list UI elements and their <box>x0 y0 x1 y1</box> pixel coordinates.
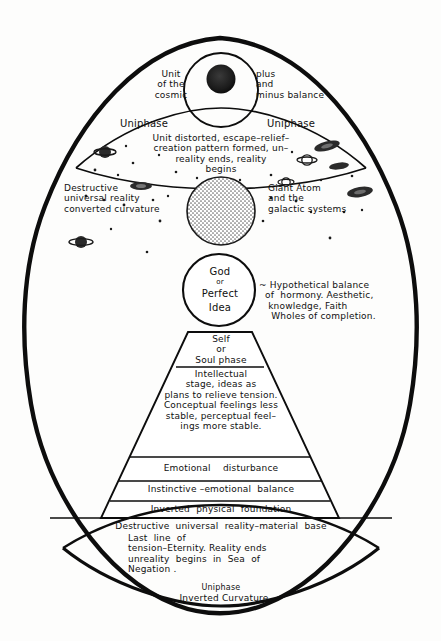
material-base-label: Destructive universal reality–material b… <box>55 521 387 531</box>
giant-atom-sphere <box>187 177 255 245</box>
top-lens-body-text: Unit distorted, escape–relief– creation … <box>101 133 341 175</box>
diagram-canvas: Unit of the cosmic plus and minus balanc… <box>0 0 441 641</box>
pyramid-emotional-band-text: Emotional disturbance <box>126 463 316 473</box>
uniphase-left-label: Uniphase <box>108 118 180 130</box>
hypothetical-balance-annotation: ~ Hypothetical balance of hormony. Aesth… <box>259 280 431 322</box>
inverted-curvature-label: Inverted Curvature <box>156 593 292 603</box>
destructive-universal-reality-caption: Destructive universal reality converted … <box>64 183 194 214</box>
perfect-label: Perfect <box>186 288 254 300</box>
giant-atom-caption: Giant Atom and the galactic systems <box>268 183 396 214</box>
pyramid-intellectual-band-text: Intellectual stage, ideas as plans to re… <box>126 369 316 432</box>
cosmic-core-dot <box>207 65 236 94</box>
pyramid-apex-band-text: Self or Soul phase <box>185 334 257 365</box>
bottom-uniphase-label: Uniphase <box>168 583 274 592</box>
idea-label: Idea <box>189 302 251 314</box>
pyramid-inverted-foundation-text: Inverted physical foundation <box>108 504 334 514</box>
uniphase-right-label: Uniphase <box>252 118 330 130</box>
plus-minus-balance-label: plus and minus balance <box>256 69 338 100</box>
pyramid-instinctive-band-text: Instinctive –emotional balance <box>115 484 327 494</box>
bottom-lens-text: Last line of tension–Eternity. Reality e… <box>128 533 346 575</box>
god-label: God <box>189 266 251 278</box>
god-or-label: or <box>189 278 251 286</box>
cosmic-unit-left-label: Unit of the cosmic <box>146 69 196 100</box>
